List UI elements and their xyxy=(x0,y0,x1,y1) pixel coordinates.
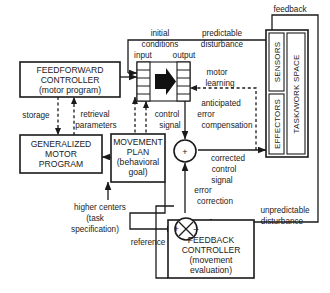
effectors-label: EFFECTORS xyxy=(273,99,282,149)
fbc-line2: CONTROLLER xyxy=(182,245,241,255)
corrected-line3: signal xyxy=(211,176,233,185)
plant-block[interactable] xyxy=(137,62,190,101)
mp-line2: PLAN xyxy=(127,147,149,157)
comparator-plus-sign: + xyxy=(174,224,179,234)
anticipated-error-line1: anticipated xyxy=(201,99,241,108)
fbc-line3: (movement xyxy=(190,255,234,265)
gmp-line3: PROGRAM xyxy=(39,159,83,169)
mp-line3: (behavioral xyxy=(117,157,160,167)
initial-conditions-line1: initial xyxy=(151,29,170,38)
control-signal-line2: signal xyxy=(159,121,181,130)
ffc-line2: CONTROLLER xyxy=(41,75,100,85)
retrieval-line2: parameters xyxy=(75,121,116,130)
mp-line1: MOVEMENT xyxy=(113,137,163,147)
higher-centers-line1: higher centers xyxy=(74,203,126,212)
initial-conditions-line2: conditions xyxy=(142,40,179,49)
corrected-line1: corrected xyxy=(211,154,246,163)
summing-junction-sign: + xyxy=(182,147,187,157)
feedforward-controller-label: FEEDFORWARD CONTROLLER (motor program) xyxy=(37,65,104,95)
error-correction-line1: error xyxy=(194,186,212,195)
higher-centers-line3: specification) xyxy=(71,225,119,234)
output-label: output xyxy=(173,51,196,60)
higher-centers-line2: (task xyxy=(86,214,105,223)
summing-junction[interactable]: + xyxy=(174,140,196,162)
anticipated-error-line3: compensation xyxy=(202,121,253,130)
motor-learning-line2: learning xyxy=(205,79,235,88)
ffc-line3: (motor program) xyxy=(39,85,101,95)
task-work-space-label: TASK/WORK SPACE xyxy=(292,54,301,133)
corrected-line2: control xyxy=(212,165,237,174)
diagram-canvas: + + – FEEDFORWARD CONTROLLER (motor prog… xyxy=(0,0,330,293)
gmp-line2: MOTOR xyxy=(45,149,77,159)
comparator-minus-sign: – xyxy=(193,224,198,234)
storage-label: storage xyxy=(22,111,50,120)
ffc-line1: FEEDFORWARD xyxy=(37,65,104,75)
motor-learning-line1: motor xyxy=(207,68,228,77)
unpredictable-line2: disturbance xyxy=(261,217,304,226)
gmp-line1: GENERALIZED xyxy=(31,139,92,149)
feedback-label: feedback xyxy=(273,5,307,14)
input-label: input xyxy=(134,51,152,60)
fbc-line4: evaluation) xyxy=(190,265,232,275)
feedback-controller-label: FEEDBACK CONTROLLER (movement evaluation… xyxy=(182,235,241,275)
fbc-line1: FEEDBACK xyxy=(188,235,235,245)
retrieval-line1: retrieval xyxy=(80,110,109,119)
control-signal-line1: control xyxy=(155,110,180,119)
error-correction-line2: correction xyxy=(197,197,233,206)
mp-line4: goal) xyxy=(128,167,147,177)
anticipated-error-line2: error xyxy=(197,110,215,119)
reference-label: reference xyxy=(131,238,166,247)
sensors-label: SENSORS xyxy=(273,42,282,83)
edge-motor-learning xyxy=(190,88,256,150)
predictable-disturbance-line1: predictable xyxy=(202,29,243,38)
predictable-disturbance-line2: disturbance xyxy=(201,40,244,49)
unpredictable-line1: unpredictable xyxy=(260,206,310,215)
